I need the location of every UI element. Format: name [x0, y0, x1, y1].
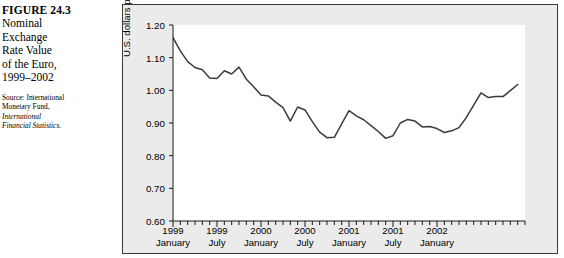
figure-number: FIGURE 24.3 — [2, 4, 116, 17]
source-line-4: Financial Statistics. — [2, 121, 116, 130]
figure-container: FIGURE 24.3 Nominal Exchange Rate Value … — [0, 0, 564, 258]
y-tick-label: 1.10 — [131, 52, 165, 63]
source-line-3: International — [2, 112, 116, 121]
x-tick-year: 2002 — [408, 225, 466, 237]
figure-title-line-2: Exchange — [2, 31, 116, 45]
source-line-1: Source: International — [2, 93, 116, 102]
figure-caption: FIGURE 24.3 Nominal Exchange Rate Value … — [2, 4, 116, 131]
x-tick-label: 2002January — [408, 225, 466, 248]
y-tick-label: 0.70 — [131, 183, 165, 194]
chart-panel: U.S. dollars per euro 1.201.101.000.900.… — [122, 4, 558, 254]
line-chart-svg — [173, 25, 525, 221]
figure-title: Nominal Exchange Rate Value of the Euro,… — [2, 17, 116, 85]
figure-title-line-1: Nominal — [2, 17, 116, 31]
y-tick-label: 0.80 — [131, 150, 165, 161]
data-series-line — [173, 38, 518, 139]
figure-source: Source: International Monetary Fund, Int… — [2, 93, 116, 131]
figure-title-line-4: of the Euro, — [2, 58, 116, 72]
source-line-2: Monetary Fund, — [2, 102, 116, 111]
y-tick-label: 1.00 — [131, 85, 165, 96]
figure-title-line-3: Rate Value — [2, 44, 116, 58]
x-tick-month: January — [408, 237, 466, 249]
y-tick-label: 0.90 — [131, 118, 165, 129]
figure-title-line-5: 1999–2002 — [2, 71, 116, 85]
y-tick-label: 1.20 — [131, 20, 165, 31]
plot-area — [173, 25, 525, 221]
